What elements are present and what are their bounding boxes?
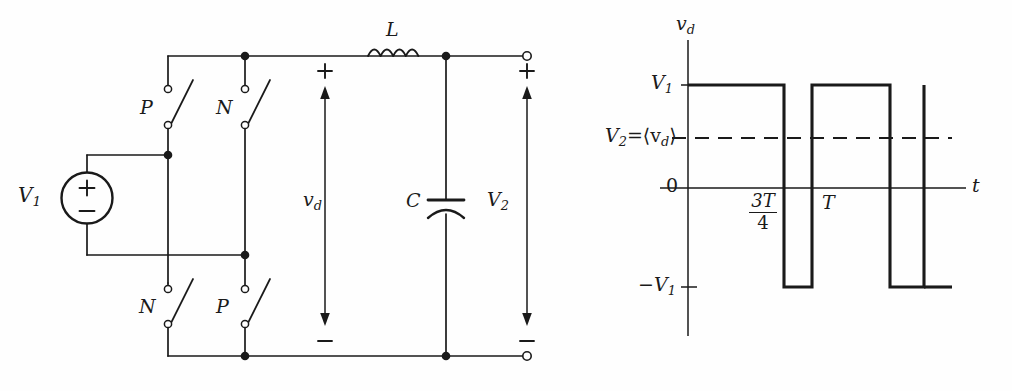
v2-arrow-head-up: [522, 86, 532, 99]
xtick-label-T: T: [822, 193, 835, 212]
square-wave-trace: [688, 85, 924, 287]
node-dot-left-mid: [164, 151, 173, 160]
xtick-label-three-quarters-T: 3T 4: [741, 192, 785, 233]
switch-label-bottom-left: N: [139, 297, 156, 316]
node-dot-cap-top: [442, 52, 451, 61]
switch-label-bottom-right: P: [216, 297, 229, 316]
vd-label: vd: [303, 190, 322, 213]
switch-label-top-right: N: [216, 98, 233, 117]
circuit-diagram: [62, 50, 535, 361]
output-terminal-bottom: [523, 352, 531, 360]
v2-plus-glyph: [520, 64, 534, 78]
vd-arrow-head-up: [320, 86, 330, 99]
switch-terminal-bl-lower: [164, 320, 171, 327]
figure-page: V1 P N N P L C vd V2 vd t V1 V2=⟨vd⟩ 0 −…: [0, 0, 1012, 391]
switch-terminal-tr-lower: [241, 121, 248, 128]
ytick-label-zero: 0: [666, 176, 678, 195]
v2-label: V2: [487, 190, 509, 213]
plot-y-axis-label: vd: [676, 14, 695, 37]
switch-blade-top-left: [170, 80, 193, 126]
node-dot-bottom-rail: [241, 352, 250, 361]
vd-arrow-head-down: [320, 313, 330, 326]
plot-x-axis-label: t: [972, 176, 980, 195]
fraction-denominator: 4: [741, 213, 785, 233]
switch-terminal-br-lower: [241, 320, 248, 327]
inductor-label: L: [386, 20, 399, 39]
ytick-label-neg-v1: −V1: [638, 275, 676, 298]
switch-terminal-tr-upper: [241, 85, 248, 92]
switch-terminal-bl-upper: [164, 285, 171, 292]
fraction-numerator: 3T: [749, 192, 776, 213]
ytick-label-average: V2=⟨vd⟩: [605, 126, 677, 149]
switch-terminal-tl-lower: [164, 121, 171, 128]
node-dot-right-mid: [241, 251, 250, 260]
node-dot-top-rail: [241, 52, 250, 61]
inductor-coil: [368, 50, 418, 57]
node-dot-cap-bottom: [442, 352, 451, 361]
v2-arrow-head-down: [522, 313, 532, 326]
waveform-plot: [660, 40, 966, 336]
switch-blade-bottom-right: [247, 279, 270, 325]
vd-plus-glyph: [318, 64, 332, 78]
capacitor-label: C: [406, 191, 421, 210]
output-terminal-top: [523, 52, 531, 60]
switch-terminal-tl-upper: [164, 85, 171, 92]
ytick-label-v1: V1: [651, 73, 673, 96]
switch-blade-top-right: [247, 80, 270, 126]
source-label: V1: [18, 185, 41, 208]
switch-label-top-left: P: [140, 98, 153, 117]
switch-terminal-br-upper: [241, 285, 248, 292]
switch-blade-bottom-left: [170, 279, 193, 325]
